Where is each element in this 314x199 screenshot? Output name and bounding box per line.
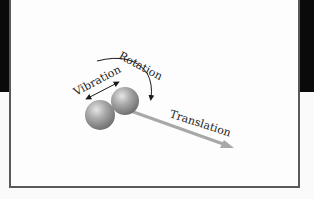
- rotation-label: Rotation: [117, 49, 165, 83]
- molecule-motion-diagram: Rotation Vibration Translation: [0, 0, 314, 199]
- atom-sphere-right: [111, 87, 139, 115]
- atom-sphere-left: [85, 100, 115, 130]
